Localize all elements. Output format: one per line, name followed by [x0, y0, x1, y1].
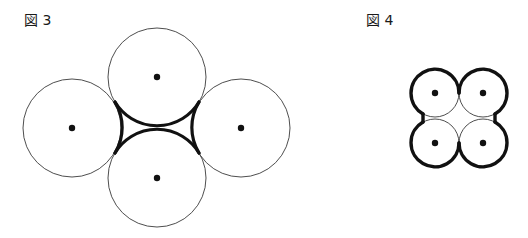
figure-4-centers: [432, 90, 486, 146]
figure-3-bold-region: [115, 102, 199, 153]
figure-3-centers: [69, 74, 244, 181]
center-dot: [69, 125, 75, 131]
figure-4-bold-outline: [411, 69, 507, 167]
center-dot: [480, 140, 486, 146]
center-dot: [154, 74, 160, 80]
center-dot: [432, 90, 438, 96]
center-dot: [432, 140, 438, 146]
figure-4: [411, 69, 507, 167]
center-dot: [238, 125, 244, 131]
center-dot: [480, 90, 486, 96]
figure-3: [23, 28, 290, 227]
diagram-canvas: [0, 0, 528, 238]
center-dot: [154, 175, 160, 181]
